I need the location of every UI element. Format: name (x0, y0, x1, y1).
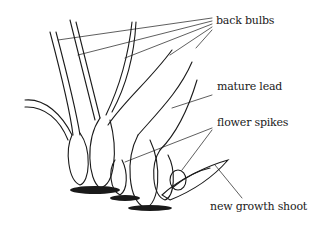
label-new-growth-shoot: new growth shoot (210, 200, 307, 213)
pseudobulbs (68, 118, 173, 208)
label-flower-spikes: flower spikes (217, 116, 288, 129)
orchid-diagram: back bulbs mature lead flower spikes new… (0, 0, 311, 228)
label-mature-lead: mature lead (217, 80, 282, 93)
orchid-illustration (0, 0, 311, 228)
label-back-bulbs: back bulbs (216, 14, 274, 27)
leader-line-mature-lead (172, 95, 212, 108)
leaves (25, 20, 197, 150)
